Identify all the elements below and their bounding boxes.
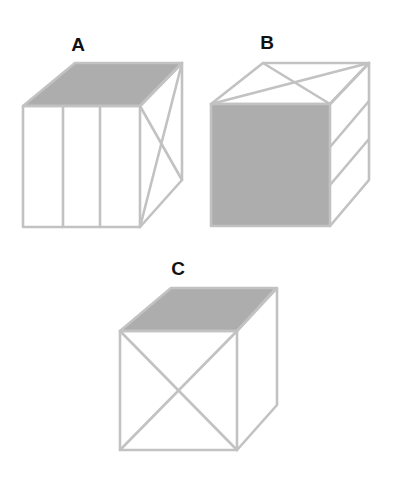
cube-c: C: [120, 258, 277, 450]
cube-c-label: C: [171, 258, 185, 279]
cube-b-top-diagonal-2: [263, 63, 330, 104]
cube-b-front-face: [211, 104, 330, 226]
cube-b: B: [211, 32, 369, 226]
cube-b-right-band-1: [330, 101, 369, 147]
cube-b-top-diagonal-1: [211, 63, 369, 104]
cube-a-label: A: [71, 34, 85, 55]
cube-diagram: A B C: [0, 0, 395, 488]
cube-a-front-face: [23, 106, 140, 227]
cube-a: A: [23, 34, 182, 227]
cube-b-label: B: [260, 32, 274, 53]
cube-a-top-face: [23, 63, 182, 106]
cube-b-right-band-2: [330, 139, 369, 185]
cube-c-top-face: [120, 288, 276, 331]
